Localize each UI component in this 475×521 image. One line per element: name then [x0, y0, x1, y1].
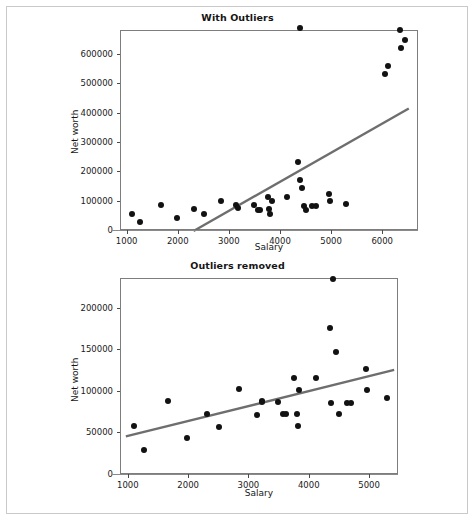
- plot-area-top: [120, 30, 418, 230]
- yaxis-label-top: Net worth: [70, 110, 80, 154]
- data-point: [299, 185, 305, 191]
- chart-panel-outliers-removed: Outliers removed 05000010000015000020000…: [0, 256, 475, 514]
- plot-area-bottom: [120, 278, 398, 474]
- ytick-mark: [117, 83, 121, 84]
- ytick-mark: [117, 391, 121, 392]
- yaxis-label-bottom: Net worth: [70, 358, 80, 402]
- data-point: [131, 423, 137, 429]
- xtick-label: 3000: [218, 236, 240, 246]
- data-point: [313, 375, 319, 381]
- xtick-mark: [280, 230, 281, 234]
- data-point: [327, 198, 333, 204]
- data-point: [218, 198, 224, 204]
- data-point: [326, 191, 332, 197]
- xtick-mark: [331, 230, 332, 234]
- data-point: [382, 71, 388, 77]
- ytick-mark: [117, 113, 121, 114]
- trend-line: [121, 279, 399, 475]
- data-point: [313, 203, 319, 209]
- data-point: [129, 211, 135, 217]
- xaxis-spine: [112, 230, 418, 231]
- data-point: [303, 207, 309, 213]
- data-point: [141, 447, 147, 453]
- data-point: [291, 375, 297, 381]
- xtick-label: 2000: [167, 236, 189, 246]
- data-point: [174, 215, 180, 221]
- plot-inner-bottom: [121, 279, 397, 473]
- chart-panel-with-outliers: With Outliers 01000002000003000004000005…: [0, 6, 475, 256]
- data-point: [158, 202, 164, 208]
- data-point: [330, 276, 336, 282]
- data-point: [336, 411, 342, 417]
- data-point: [216, 424, 222, 430]
- data-point: [235, 205, 241, 211]
- xtick-label: 2000: [177, 480, 199, 490]
- data-point: [328, 400, 334, 406]
- ytick-mark: [117, 432, 121, 433]
- chart-title-bottom: Outliers removed: [0, 260, 475, 271]
- data-point: [295, 423, 301, 429]
- figure-canvas: With Outliers 01000002000003000004000005…: [0, 0, 475, 521]
- ytick-label: 600000: [81, 49, 113, 59]
- xtick-label: 1000: [116, 236, 138, 246]
- data-point: [204, 411, 210, 417]
- data-point: [201, 211, 207, 217]
- xtick-label: 5000: [358, 480, 380, 490]
- data-point: [165, 398, 171, 404]
- ytick-label: 100000: [81, 386, 113, 396]
- ytick-mark: [117, 54, 121, 55]
- data-point: [397, 27, 403, 33]
- ytick-label: 200000: [81, 166, 113, 176]
- xaxis-label-bottom: Salary: [245, 488, 273, 498]
- data-point: [191, 206, 197, 212]
- xtick-mark: [128, 474, 129, 478]
- xtick-label: 6000: [371, 236, 393, 246]
- ytick-label: 300000: [81, 137, 113, 147]
- xtick-mark: [127, 230, 128, 234]
- data-point: [257, 207, 263, 213]
- data-point: [275, 399, 281, 405]
- data-point: [184, 435, 190, 441]
- data-point: [343, 201, 349, 207]
- ytick-label: 500000: [81, 78, 113, 88]
- data-point: [363, 366, 369, 372]
- data-point: [267, 211, 273, 217]
- data-point: [333, 349, 339, 355]
- xtick-mark: [369, 474, 370, 478]
- xtick-label: 1000: [117, 480, 139, 490]
- data-point: [364, 387, 370, 393]
- xtick-mark: [188, 474, 189, 478]
- ytick-label: 100000: [81, 196, 113, 206]
- xtick-mark: [309, 474, 310, 478]
- data-point: [398, 45, 404, 51]
- ytick-label: 50000: [86, 427, 113, 437]
- xtick-mark: [382, 230, 383, 234]
- data-point: [384, 395, 390, 401]
- ytick-label: 400000: [81, 108, 113, 118]
- ytick-mark: [117, 201, 121, 202]
- data-point: [137, 219, 143, 225]
- data-point: [294, 411, 300, 417]
- ytick-mark: [117, 308, 121, 309]
- data-point: [327, 325, 333, 331]
- chart-title-top: With Outliers: [0, 12, 475, 23]
- ytick-label: 200000: [81, 303, 113, 313]
- xaxis-spine: [112, 474, 398, 475]
- xtick-mark: [178, 230, 179, 234]
- xaxis-label-top: Salary: [255, 242, 283, 252]
- xtick-label: 4000: [298, 480, 320, 490]
- data-point: [254, 412, 260, 418]
- data-point: [284, 194, 290, 200]
- ytick-mark: [117, 171, 121, 172]
- xtick-mark: [248, 474, 249, 478]
- data-point: [296, 387, 302, 393]
- ytick-mark: [117, 142, 121, 143]
- data-point: [385, 63, 391, 69]
- data-point: [259, 399, 265, 405]
- data-point: [402, 37, 408, 43]
- xtick-label: 5000: [320, 236, 342, 246]
- data-point: [348, 400, 354, 406]
- data-point: [297, 177, 303, 183]
- data-point: [295, 159, 301, 165]
- data-point: [269, 198, 275, 204]
